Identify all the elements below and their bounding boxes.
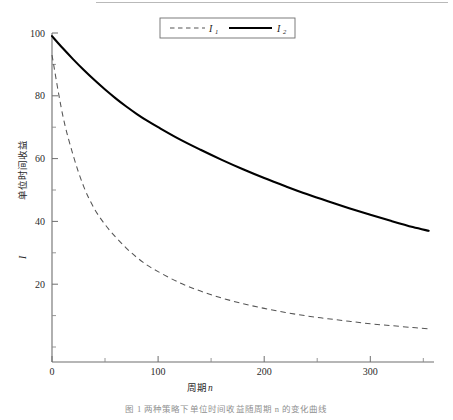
- series-line-I1: [52, 55, 429, 329]
- figure-container: 100 80 60 40 20 0 100 200 300: [0, 0, 453, 420]
- x-axis-title-var: n: [208, 383, 213, 393]
- x-axis-title: 周期 n: [187, 383, 213, 393]
- axis-lines: [52, 33, 434, 362]
- legend-label-I2: I: [276, 23, 281, 34]
- y-tick-label: 40: [35, 216, 45, 227]
- y-axis-tick-labels: 100 80 60 40 20: [30, 28, 45, 290]
- y-axis-major-ticks: [52, 33, 58, 284]
- x-axis-tick-labels: 0 100 200 300: [50, 366, 378, 377]
- x-axis-title-text: 周期: [187, 383, 207, 393]
- y-tick-label: 80: [35, 90, 45, 101]
- y-axis-title-var: I: [18, 255, 28, 260]
- y-axis-title: 单位时间收益 I: [17, 140, 28, 260]
- figure-caption: 图 1 两种策略下单位时间收益随周期 n 的变化曲线: [0, 402, 453, 414]
- chart-legend[interactable]: I 1 I 2: [160, 18, 295, 38]
- y-tick-label: 100: [30, 28, 45, 39]
- series-line-I2: [52, 36, 429, 231]
- legend-label-I1: I: [208, 23, 213, 34]
- x-tick-label: 0: [50, 366, 55, 377]
- y-axis-title-text: 单位时间收益: [17, 140, 28, 200]
- y-axis-minor-ticks: [52, 64, 56, 347]
- y-tick-label: 20: [35, 279, 45, 290]
- y-tick-label: 60: [35, 153, 45, 164]
- x-tick-label: 300: [363, 366, 378, 377]
- series-paths: [52, 36, 429, 329]
- line-chart: 100 80 60 40 20 0 100 200 300: [0, 0, 453, 420]
- x-tick-label: 100: [151, 366, 166, 377]
- legend-subscript-I1: 1: [215, 28, 218, 35]
- x-tick-label: 200: [257, 366, 272, 377]
